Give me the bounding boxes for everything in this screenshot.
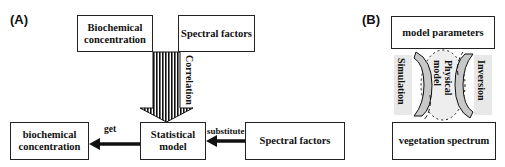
spectral-factors-box-bottom: Spectral factors (245, 122, 345, 160)
get-arrow (89, 138, 140, 150)
box-line: concentration (19, 141, 81, 153)
vegetation-spectrum-box: vegetation spectrum (392, 122, 496, 160)
box-line: Statistical (151, 129, 195, 141)
spectral-factors-box-top: Spectral factors (178, 15, 255, 52)
get-label: get (104, 124, 116, 134)
box-line: Biochemical (84, 22, 146, 34)
correlation-label: Correlation (184, 55, 195, 105)
box-line: concentration (84, 34, 146, 46)
model-parameters-box: model parameters (391, 16, 495, 49)
box-line: vegetation spectrum (399, 135, 490, 147)
physical-model-label: Physical model (432, 60, 454, 96)
simulation-label: Simulation (396, 58, 407, 105)
box-line: Spectral factors (260, 135, 331, 147)
box-line: model (151, 141, 195, 153)
inversion-label: Inversion (476, 60, 487, 101)
box-line: model parameters (402, 27, 483, 39)
box-line: Spectral factors (181, 28, 252, 40)
substitute-label: substitute (207, 126, 245, 136)
panel-b-label: (B) (362, 12, 380, 27)
box-line: biochemical (19, 129, 81, 141)
biochemical-concentration-box: Biochemical concentration (77, 15, 153, 52)
physical-model-line: Physical (443, 60, 454, 96)
biochemical-concentration-result-box: biochemical concentration (10, 122, 89, 160)
physical-model-line: model (432, 60, 443, 96)
statistical-model-box: Statistical model (140, 122, 206, 160)
substitute-arrow (206, 135, 245, 147)
panel-a-label: (A) (10, 12, 28, 27)
